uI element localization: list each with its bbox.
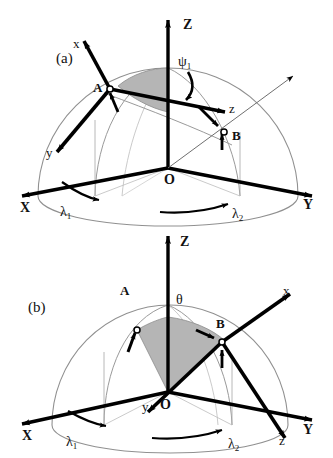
angle-label-theta: θ	[176, 292, 183, 307]
origin-label-b: O	[160, 397, 171, 412]
tangent-arrow-b	[128, 333, 135, 352]
axis-label-Z-a: Z	[183, 17, 192, 32]
axis-label-Y-b: Y	[303, 422, 313, 437]
local-label-y-a: y	[46, 145, 53, 160]
axis-label-Y-a: Y	[303, 197, 313, 212]
local-label-y-b: y	[142, 399, 149, 414]
angle-label-psi1: ψ1	[178, 54, 191, 71]
origin-label-a: O	[164, 172, 175, 187]
arc-label-lambda1-b: λ1	[66, 434, 77, 451]
radial-line-b-1	[104, 392, 168, 425]
local-label-x-b: x	[283, 283, 290, 298]
point-label-a-a: A	[93, 80, 103, 95]
local-label-x-a: x	[73, 36, 80, 51]
point-marker-a-b	[134, 327, 140, 333]
arc-arrow-lambda1-b	[68, 411, 106, 426]
radial-line-a-1	[95, 168, 168, 196]
arc-arrow-lambda2-a	[160, 204, 228, 213]
local-label-z-b: z	[279, 433, 285, 448]
point-label-a-b: A	[120, 283, 130, 298]
arc-label-lambda2-a: λ2	[232, 206, 243, 223]
tangent-arrow-a	[110, 93, 118, 112]
axis-Y-b	[168, 392, 312, 420]
figure-container: (a) Z X Y O A B x y z ψ1 λ1 λ2	[0, 0, 333, 458]
local-axis-x-b	[222, 294, 290, 342]
arc-label-lambda2-b: λ2	[228, 436, 239, 453]
axis-label-X-b: X	[22, 428, 32, 443]
radial-line-a-2	[168, 168, 240, 196]
point-marker-b-a	[221, 129, 227, 135]
arc-arrow-lambda2-b	[152, 430, 222, 439]
axis-label-Z-b: Z	[180, 234, 189, 249]
point-marker-b-b	[219, 339, 225, 345]
point-marker-a-a	[107, 86, 113, 92]
arc-label-lambda1-a: λ1	[60, 204, 71, 221]
panel-label-a: (a)	[56, 50, 73, 67]
panel-label-b: (b)	[28, 299, 46, 316]
panel-b: (b) Z X Y O A B x y z θ λ1 λ2	[22, 234, 313, 453]
angle-arrow-psi1	[186, 72, 192, 100]
axis-label-X-a: X	[20, 200, 30, 215]
point-label-b-b: B	[216, 316, 225, 331]
point-label-b-a: B	[232, 128, 241, 143]
equator-arc-a	[38, 196, 298, 226]
local-label-z-a: z	[229, 101, 235, 116]
panel-a: (a) Z X Y O A B x y z ψ1 λ1 λ2	[20, 17, 313, 226]
